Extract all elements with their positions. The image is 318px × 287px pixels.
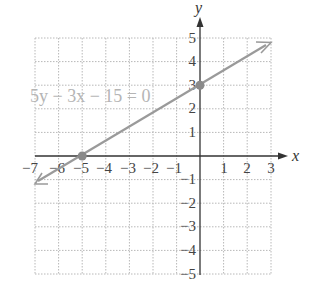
x-tick: 1: [220, 160, 228, 176]
y-tick: −2: [180, 195, 196, 211]
x-tick: −5: [73, 160, 89, 176]
equation-label: 5y − 3x − 15 = 0: [30, 86, 150, 106]
y-tick: 2: [189, 100, 197, 116]
y-axis: [197, 17, 204, 275]
y-tick: −3: [180, 218, 196, 234]
x-tick: 3: [267, 160, 275, 176]
y-tick: 4: [189, 53, 197, 69]
x-tick: −2: [143, 160, 159, 176]
x-intercept-point: [78, 152, 87, 161]
y-axis-arrow-icon: [197, 17, 204, 27]
x-axis-arrow-icon: [278, 153, 288, 160]
y-tick: −1: [180, 171, 196, 187]
x-axis: [35, 153, 288, 160]
y-intercept-point: [196, 81, 205, 90]
y-tick: 1: [189, 124, 197, 140]
coordinate-plane: 5y − 3x − 15 = 0 x y −7 −6 −5 −4 −3 −2 −…: [0, 0, 318, 287]
y-tick: 5: [189, 30, 197, 46]
x-tick: −3: [120, 160, 136, 176]
y-tick: −4: [180, 242, 196, 258]
y-axis-label: y: [193, 0, 203, 17]
x-axis-label: x: [291, 147, 299, 164]
x-tick: −7: [22, 160, 38, 176]
x-tick: 2: [243, 160, 251, 176]
x-tick: −4: [96, 160, 112, 176]
y-tick: −5: [180, 266, 196, 282]
